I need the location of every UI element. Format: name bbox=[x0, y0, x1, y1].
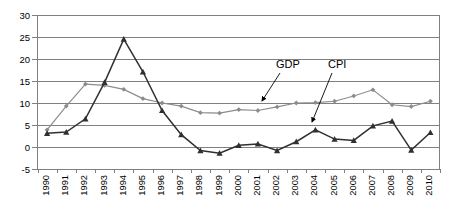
line-chart: 302520151050-5 1990199119921993199419951… bbox=[0, 0, 460, 215]
annotation-arrows-layer bbox=[0, 0, 460, 215]
annotation-arrow-gdp bbox=[262, 73, 280, 101]
annotation-label-gdp: GDP bbox=[276, 59, 300, 70]
annotation-arrow-cpi bbox=[312, 73, 332, 122]
annotation-label-cpi: CPI bbox=[328, 59, 346, 70]
